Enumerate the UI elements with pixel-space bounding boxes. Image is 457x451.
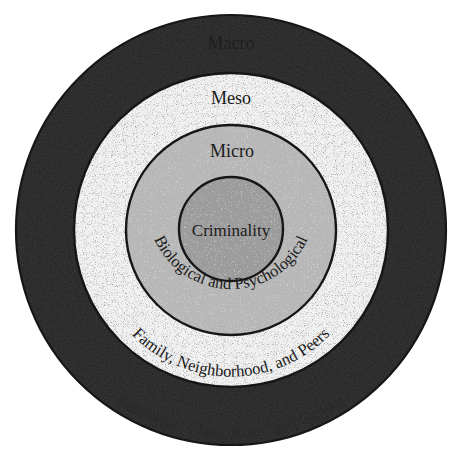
criminality-levels-diagram: Macro Meso Micro Criminality Biological … (0, 0, 457, 451)
concentric-circles-svg: Macro Meso Micro Criminality Biological … (0, 0, 457, 451)
micro-level-label: Micro (210, 141, 254, 161)
macro-level-label: Macro (208, 33, 255, 53)
criminality-label: Criminality (192, 221, 271, 240)
meso-level-label: Meso (211, 88, 251, 108)
